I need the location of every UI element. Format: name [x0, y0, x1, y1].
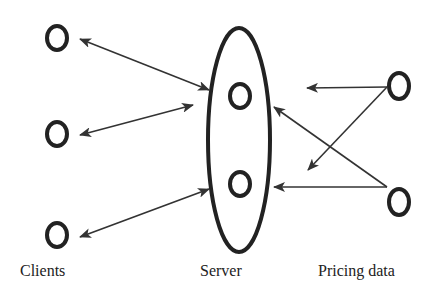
- edge-pricing-1-server-bottom: [308, 87, 387, 170]
- server-boundary: [208, 28, 270, 252]
- edge-client-1-server: [80, 39, 209, 90]
- client-node-2: [47, 122, 67, 146]
- pricing-data-label: Pricing data: [318, 262, 395, 280]
- edge-client-3-server: [80, 189, 209, 237]
- server-node-1: [230, 84, 250, 108]
- server-label: Server: [200, 262, 242, 280]
- pricing-node-1: [389, 73, 409, 99]
- pricing-node-2: [389, 189, 409, 215]
- edge-pricing-1-server-top: [307, 87, 387, 88]
- edge-client-2-server: [80, 105, 193, 135]
- client-node-1: [47, 26, 67, 50]
- client-node-3: [47, 223, 67, 247]
- edge-pricing-2-server-top: [274, 107, 387, 187]
- server-node-2: [230, 172, 250, 196]
- diagram-canvas: [0, 0, 436, 300]
- clients-label: Clients: [20, 262, 65, 280]
